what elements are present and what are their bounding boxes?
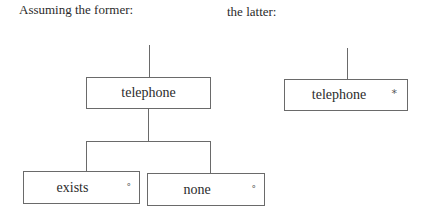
node-label: telephone — [285, 87, 393, 103]
edge-root-in-right — [347, 48, 348, 79]
edge-to-exists — [86, 141, 87, 171]
edge-children-bar — [86, 141, 211, 142]
caption-latter: the latter: — [227, 4, 276, 20]
node-label: exists — [24, 180, 121, 196]
node-telephone-right: telephone * — [284, 79, 408, 111]
circle-marker-icon: ° — [252, 184, 257, 194]
caption-former: Assuming the former: — [19, 2, 133, 18]
edge-root-in — [149, 45, 150, 77]
circle-marker-icon: ° — [127, 182, 132, 192]
node-telephone-left: telephone — [86, 77, 211, 109]
node-label: none — [148, 182, 246, 198]
edge-to-none — [210, 141, 211, 173]
node-none: none ° — [147, 173, 265, 206]
node-label: telephone — [87, 85, 210, 101]
node-exists: exists ° — [23, 171, 140, 204]
edge-root-out — [148, 109, 149, 141]
asterisk-marker-icon: * — [392, 87, 398, 100]
